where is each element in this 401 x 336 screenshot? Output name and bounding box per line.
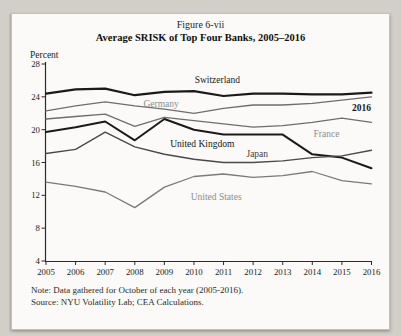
series-line-united-states [46, 172, 372, 208]
x-tick-label-2008: 2008 [126, 267, 144, 277]
y-axis-unit-label: Percent [30, 50, 59, 60]
y-tick-label-12: 12 [31, 190, 40, 200]
y-tick-label-28: 28 [31, 59, 40, 69]
x-tick-label-2006: 2006 [67, 267, 85, 277]
series-label-japan: Japan [246, 149, 268, 159]
annotation-2016: 2016 [352, 103, 371, 113]
series-label-switzerland: Switzerland [195, 75, 241, 85]
series-label-france: France [314, 129, 340, 139]
series-label-united-kingdom: United Kingdom [170, 139, 235, 149]
series-label-germany: Germany [143, 99, 179, 109]
x-tick-label-2009: 2009 [156, 267, 174, 277]
series-line-switzerland [46, 89, 372, 96]
y-tick-label-8: 8 [36, 223, 41, 233]
series-label-united-states: United States [191, 192, 242, 202]
x-tick-label-2010: 2010 [185, 267, 203, 277]
x-tick-label-2014: 2014 [304, 267, 322, 277]
series-line-germany [46, 97, 372, 114]
srisk-line-chart: 4812162024282005200620072008200920102011… [0, 0, 401, 336]
x-tick-label-2013: 2013 [274, 267, 292, 277]
x-tick-label-2015: 2015 [333, 267, 351, 277]
x-tick-label-2012: 2012 [244, 267, 262, 277]
y-tick-label-20: 20 [31, 125, 40, 135]
y-tick-label-24: 24 [31, 92, 40, 102]
x-tick-label-2011: 2011 [215, 267, 232, 277]
x-tick-label-2007: 2007 [96, 267, 114, 277]
series-line-france [46, 114, 372, 127]
x-tick-label-2016: 2016 [363, 267, 381, 277]
y-tick-label-16: 16 [31, 158, 40, 168]
x-tick-label-2005: 2005 [37, 267, 55, 277]
y-tick-label-4: 4 [36, 256, 41, 266]
axes [46, 62, 373, 262]
